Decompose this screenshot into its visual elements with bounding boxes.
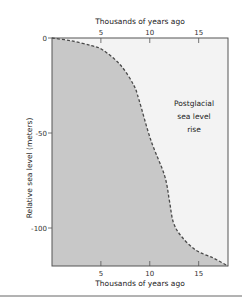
x-tick-label-bottom: 10 (145, 270, 154, 278)
y-tick-label: -50 (36, 130, 47, 138)
svg-text:Postglacial: Postglacial (174, 99, 214, 108)
x-tick-label-bottom: 15 (194, 270, 203, 278)
svg-text:sea level: sea level (177, 112, 210, 121)
bottom-x-axis-title: Thousands of years ago (94, 279, 185, 288)
svg-text:rise: rise (187, 125, 201, 134)
x-tick-label-top: 15 (194, 29, 203, 37)
top-x-axis-title: Thousands of years ago (94, 17, 185, 26)
x-tick-label-bottom: 5 (99, 270, 103, 278)
sea-level-chart: 51015 51015 0-50-100 Thousands of years … (0, 0, 242, 305)
y-tick-label: 0 (43, 35, 47, 43)
y-axis: 0-50-100 (31, 35, 52, 233)
y-axis-title: Relative sea level (meters) (25, 118, 34, 219)
y-tick-label: -100 (31, 225, 47, 233)
x-tick-label-top: 5 (99, 29, 103, 37)
x-tick-label-top: 10 (145, 29, 154, 37)
